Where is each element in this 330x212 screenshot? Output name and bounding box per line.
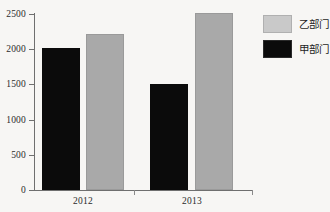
x-tick-label-2013: 2013 xyxy=(182,196,202,206)
bar-chart-figure: 2500 2000 1500 1000 500 0 2 xyxy=(0,0,330,212)
gray-swatch-icon xyxy=(263,15,292,33)
plot-area: 2500 2000 1500 1000 500 0 2 xyxy=(34,13,253,191)
bar-2013-series-a xyxy=(150,84,188,190)
legend-label: 乙部门 xyxy=(299,16,329,31)
x-axis-line xyxy=(34,190,253,191)
legend-item-series-a: 甲部门 xyxy=(263,39,327,58)
y-axis-line xyxy=(34,13,35,191)
x-tick-end xyxy=(252,190,253,195)
y-tick-label: 0 xyxy=(21,185,26,195)
y-tick-label: 2000 xyxy=(6,44,26,54)
y-tick-label: 1500 xyxy=(6,79,26,89)
x-tick-divider xyxy=(134,190,135,195)
bar-2012-series-b xyxy=(86,34,124,190)
legend-item-series-b: 乙部门 xyxy=(263,14,327,33)
black-swatch-icon xyxy=(263,40,292,58)
bar-2013-series-b xyxy=(195,13,233,190)
x-tick-label-2012: 2012 xyxy=(73,196,93,206)
y-tick-label: 2500 xyxy=(6,9,26,19)
y-tick-label: 1000 xyxy=(6,115,26,125)
y-tick-label: 500 xyxy=(11,150,26,160)
legend-label: 甲部门 xyxy=(299,41,329,56)
bar-2012-series-a xyxy=(42,48,80,190)
legend: 乙部门 甲部门 xyxy=(263,14,327,64)
